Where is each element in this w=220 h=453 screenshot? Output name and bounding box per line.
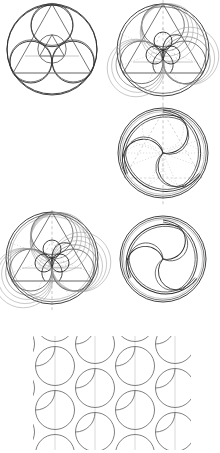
vertical-rules	[55, 336, 175, 450]
panel-circle-packing	[0, 0, 220, 453]
pinch-arcs	[36, 325, 216, 433]
tiling-group	[0, 303, 215, 453]
packed-circles	[0, 303, 195, 453]
construction-plate	[0, 0, 220, 453]
